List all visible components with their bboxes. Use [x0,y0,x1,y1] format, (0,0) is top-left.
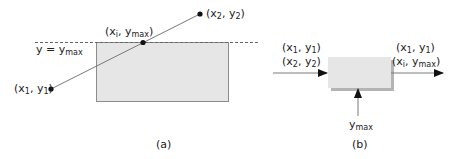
diagram-canvas [0,0,454,159]
intersection-label: (xi, ymax) [105,26,153,41]
clipper-box [328,57,391,88]
caption-b: (b) [352,138,368,151]
ymax-label: ymax [349,119,373,134]
clip-line-label: y = ymax [36,44,83,59]
point-1-label: (x1, y1) [14,83,53,98]
clip-window-rect [97,43,229,102]
input-label-2: (x2, y2) [282,56,321,71]
point-2-dot [197,11,202,16]
output-label-2: (xi, ymax) [392,56,440,71]
point-2-label: (x2, y2) [206,8,245,23]
caption-a: (a) [156,138,171,151]
